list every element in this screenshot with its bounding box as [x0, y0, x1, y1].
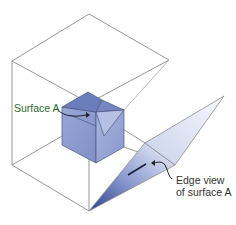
surface-a-label: Surface A — [14, 102, 60, 114]
diagram-canvas: Surface A Edge view of surface A — [0, 0, 236, 225]
glass-box-bottom-front-edge — [12, 165, 89, 211]
projection-line-3 — [124, 60, 169, 110]
glass-box-bottom-back-edge — [12, 136, 62, 165]
edge-view-label-line2: of surface A — [176, 186, 231, 198]
glass-box-top-face — [12, 14, 169, 103]
edge-view-label-line1: Edge view — [176, 174, 231, 186]
object-cube — [62, 92, 124, 163]
edge-view-label: Edge view of surface A — [176, 174, 231, 198]
